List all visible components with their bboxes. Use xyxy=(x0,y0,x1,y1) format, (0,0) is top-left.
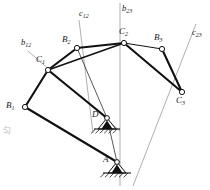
construction-label-c23: c23 xyxy=(192,28,202,37)
joint-b3 xyxy=(159,46,164,51)
support-hatch xyxy=(119,173,123,177)
joint-b1 xyxy=(22,104,27,109)
construction-label-b23: b23 xyxy=(122,4,132,13)
joint-label-c2-subscript: 2 xyxy=(125,31,128,37)
joint-label-a: A xyxy=(103,155,109,164)
joint-label-b2-subscript: 2 xyxy=(68,39,71,45)
link-C2-C3 xyxy=(124,43,182,92)
supports-group xyxy=(91,118,131,177)
construction-label-b23-subscript: 23 xyxy=(126,8,132,14)
joint-label-c3-subscript: 3 xyxy=(182,100,185,106)
joint-label-c3: C3 xyxy=(176,96,185,105)
construction-label-c23-subscript: 23 xyxy=(196,32,202,38)
links-group xyxy=(25,43,182,162)
joint-c2 xyxy=(121,40,126,45)
joint-c3 xyxy=(179,89,184,94)
joint-label-c1-subscript: 1 xyxy=(42,59,45,65)
construction-label-b12: b12 xyxy=(21,38,31,47)
linkage-diagram: B1C1B2C2B3C3DAb12c12b23c23 匀 xyxy=(0,0,210,190)
link-C1-B2 xyxy=(48,48,77,70)
joint-label-b2: B2 xyxy=(62,35,71,44)
link-B2-D xyxy=(77,48,107,118)
support-hatch xyxy=(100,173,104,177)
joint-label-d: D xyxy=(92,110,99,119)
support-hatch xyxy=(96,129,100,133)
support-hatch xyxy=(104,129,108,133)
support-hatch xyxy=(105,173,109,177)
support-hatch xyxy=(113,129,117,133)
joint-label-b3: B3 xyxy=(154,33,163,42)
joints-group xyxy=(22,40,184,164)
joint-c1 xyxy=(45,67,50,72)
joint-label-b1: B1 xyxy=(6,101,15,110)
support-hatch xyxy=(110,173,114,177)
joint-label-c1: C1 xyxy=(36,55,45,64)
construction-label-c12-subscript: 12 xyxy=(83,13,89,19)
support-hatch xyxy=(91,129,95,133)
joint-label-c2: C2 xyxy=(119,27,128,36)
joint-label-b1-subscript: 1 xyxy=(12,105,15,111)
construction-label-b12-subscript: 12 xyxy=(25,42,31,48)
support-hatch xyxy=(124,173,128,177)
joint-a xyxy=(115,160,120,165)
joint-b2 xyxy=(74,45,79,50)
scan-artifact-mark: 匀 xyxy=(3,124,11,135)
link-B1-C1b xyxy=(25,70,48,107)
support-hatch xyxy=(100,129,104,133)
construction-label-c12: c12 xyxy=(79,9,89,18)
construction-line-c12 xyxy=(79,20,93,133)
joint-label-b3-subscript: 3 xyxy=(160,37,163,43)
joint-d xyxy=(105,116,110,121)
support-hatch xyxy=(114,173,118,177)
